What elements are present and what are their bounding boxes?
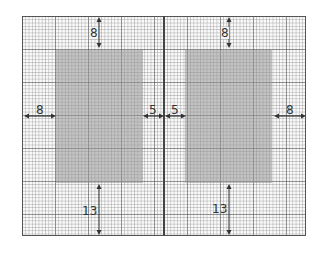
left-page-text-block: [56, 50, 143, 183]
center-gutter-line: [163, 16, 165, 236]
right-outer-margin-label: 8: [286, 104, 294, 116]
left-inner-margin-label: 5: [149, 104, 157, 116]
left-top-margin-label: 8: [90, 27, 98, 39]
left-outer-margin-label: 8: [36, 104, 44, 116]
left-bottom-margin-label: 13: [82, 205, 97, 217]
right-inner-margin-label: 5: [171, 104, 179, 116]
right-top-margin-label: 8: [221, 27, 229, 39]
right-page-text-block: [185, 50, 272, 183]
right-bottom-margin-label: 13: [212, 203, 227, 215]
